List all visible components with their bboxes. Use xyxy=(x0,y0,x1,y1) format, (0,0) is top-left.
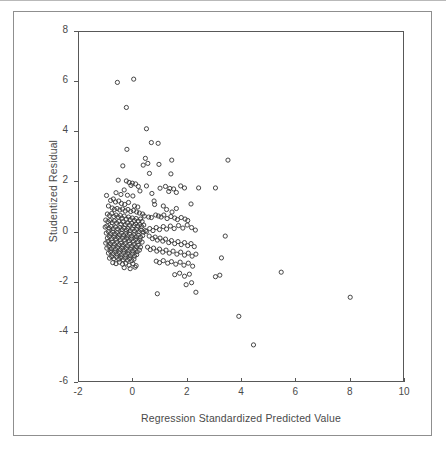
data-point xyxy=(181,226,185,230)
y-tick-mark xyxy=(74,181,78,182)
x-tick-mark xyxy=(187,378,188,382)
data-point xyxy=(138,189,142,193)
y-tick-mark xyxy=(74,131,78,132)
data-point xyxy=(143,156,147,160)
data-point xyxy=(174,262,178,266)
data-point xyxy=(147,171,151,175)
data-point xyxy=(197,186,201,190)
data-point xyxy=(182,186,186,190)
x-tick-label: 6 xyxy=(283,386,307,397)
data-point xyxy=(154,213,158,217)
x-tick-mark xyxy=(350,378,351,382)
data-point xyxy=(172,226,176,230)
y-tick-label: 0 xyxy=(46,225,68,236)
x-tick-mark xyxy=(132,378,133,382)
data-point xyxy=(157,162,161,166)
data-point xyxy=(223,234,227,238)
data-point xyxy=(192,245,196,249)
data-point xyxy=(141,163,145,167)
data-point xyxy=(213,275,217,279)
data-point xyxy=(149,215,153,219)
y-tick-label: -6 xyxy=(46,375,68,386)
data-point xyxy=(144,127,148,131)
top-divider-rule xyxy=(0,0,446,1)
data-point xyxy=(187,272,191,276)
data-point xyxy=(179,250,183,254)
data-point xyxy=(145,245,149,249)
data-point xyxy=(144,184,148,188)
data-point xyxy=(149,140,153,144)
y-axis-title: Studentized Residual xyxy=(47,81,59,301)
y-tick-label: -2 xyxy=(46,275,68,286)
scatter-plot-figure: Studentized Residual Regression Standard… xyxy=(0,0,446,451)
data-point xyxy=(156,141,160,145)
data-points-group xyxy=(103,77,352,347)
data-point xyxy=(174,206,178,210)
data-point xyxy=(164,207,168,211)
data-point xyxy=(124,105,128,109)
data-point xyxy=(348,295,352,299)
x-tick-mark xyxy=(404,378,405,382)
data-point xyxy=(279,270,283,274)
data-point xyxy=(158,186,162,190)
data-point xyxy=(132,77,136,81)
x-tick-label: 8 xyxy=(338,386,362,397)
y-tick-mark xyxy=(74,382,78,383)
y-tick-mark xyxy=(74,332,78,333)
data-point xyxy=(116,178,120,182)
data-point xyxy=(146,161,150,165)
data-point xyxy=(191,264,195,268)
x-tick-mark xyxy=(241,378,242,382)
x-tick-mark xyxy=(295,378,296,382)
data-point xyxy=(237,314,241,318)
y-tick-mark xyxy=(74,282,78,283)
data-point xyxy=(194,290,198,294)
y-tick-mark xyxy=(74,81,78,82)
y-tick-label: 8 xyxy=(46,24,68,35)
data-point xyxy=(104,193,108,197)
data-point xyxy=(169,260,173,264)
y-tick-label: -4 xyxy=(46,325,68,336)
data-point xyxy=(185,223,189,227)
data-point xyxy=(114,191,118,195)
data-point xyxy=(171,249,175,253)
data-point xyxy=(219,256,223,260)
data-point xyxy=(170,158,174,162)
data-point xyxy=(150,191,154,195)
data-point xyxy=(213,186,217,190)
scatter-points-layer xyxy=(78,31,404,382)
x-tick-label: 0 xyxy=(120,386,144,397)
data-point xyxy=(122,188,126,192)
y-tick-label: 4 xyxy=(46,124,68,135)
data-point xyxy=(119,192,123,196)
data-point xyxy=(157,227,161,231)
data-point xyxy=(173,273,177,277)
data-point xyxy=(169,172,173,176)
data-point xyxy=(125,147,129,151)
data-point xyxy=(164,227,168,231)
y-tick-mark xyxy=(74,232,78,233)
data-point xyxy=(174,190,178,194)
x-tick-label: 2 xyxy=(175,386,199,397)
data-point xyxy=(131,194,135,198)
data-point xyxy=(163,184,167,188)
y-tick-label: 2 xyxy=(46,174,68,185)
data-point xyxy=(182,263,186,267)
data-point xyxy=(161,259,165,263)
data-point xyxy=(186,251,190,255)
data-point xyxy=(182,274,186,278)
data-point xyxy=(226,158,230,162)
data-point xyxy=(178,260,182,264)
data-point xyxy=(156,214,160,218)
x-tick-label: -2 xyxy=(66,386,90,397)
data-point xyxy=(193,228,197,232)
data-point xyxy=(218,273,222,277)
y-tick-label: 6 xyxy=(46,74,68,85)
data-point xyxy=(122,266,126,270)
data-point xyxy=(161,204,165,208)
data-point xyxy=(170,210,174,214)
x-tick-label: 10 xyxy=(392,386,416,397)
data-point xyxy=(184,283,188,287)
data-point xyxy=(178,271,182,275)
x-axis-title: Regression Standardized Predicted Value xyxy=(78,412,404,424)
